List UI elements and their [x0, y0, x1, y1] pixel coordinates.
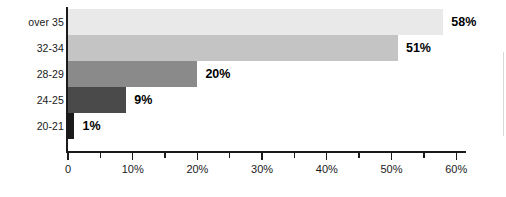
y-axis-line: [66, 7, 68, 153]
x-axis-tick-label: 30%: [251, 163, 273, 175]
x-axis-major-tick: [456, 153, 457, 160]
category-label: 20-21: [4, 120, 64, 132]
x-axis-major-tick: [261, 153, 262, 160]
x-axis-major-tick: [67, 153, 68, 160]
bar-row: 20%: [68, 61, 506, 87]
x-axis-major-tick: [391, 153, 392, 160]
bar-row: 1%: [68, 113, 506, 139]
bar-value-label: 9%: [134, 93, 152, 107]
bar-row: 51%: [68, 35, 506, 61]
x-axis-major-tick: [132, 153, 133, 160]
x-axis-line: [66, 151, 466, 153]
x-axis-minor-tick: [164, 153, 165, 158]
bar-row: 58%: [68, 9, 506, 35]
x-axis-major-tick: [197, 153, 198, 160]
category-label: 28-29: [4, 68, 64, 80]
x-axis-minor-tick: [294, 153, 295, 158]
bar-value-label: 20%: [205, 67, 230, 81]
bar-value-label: 58%: [451, 15, 476, 29]
category-axis-labels: over 3532-3428-2924-2520-21: [2, 0, 64, 152]
x-axis-tick-label: 20%: [186, 163, 208, 175]
bar: [68, 113, 74, 139]
scan-edge-artifact: [503, 52, 504, 136]
x-axis-minor-tick: [358, 153, 359, 158]
bar: [68, 35, 398, 61]
x-axis-tick-label: 0: [65, 163, 71, 175]
x-axis-tick-label: 60%: [445, 163, 467, 175]
bar-chart: over 3532-3428-2924-2520-21 58%51%20%9%1…: [0, 0, 506, 197]
x-axis-minor-tick: [229, 153, 230, 158]
category-label: over 35: [4, 16, 64, 28]
x-axis-tick-label: 10%: [122, 163, 144, 175]
bar-value-label: 51%: [406, 41, 431, 55]
bar: [68, 61, 197, 87]
plot-area: 58%51%20%9%1%: [68, 0, 506, 152]
category-label: 24-25: [4, 94, 64, 106]
x-axis-major-tick: [326, 153, 327, 160]
category-label: 32-34: [4, 42, 64, 54]
bar: [68, 87, 126, 113]
bar-value-label: 1%: [82, 119, 100, 133]
x-axis-minor-tick: [423, 153, 424, 158]
x-axis-tick-label: 50%: [380, 163, 402, 175]
bar: [68, 9, 443, 35]
x-axis-minor-tick: [100, 153, 101, 158]
x-axis-tick-label: 40%: [316, 163, 338, 175]
bar-row: 9%: [68, 87, 506, 113]
